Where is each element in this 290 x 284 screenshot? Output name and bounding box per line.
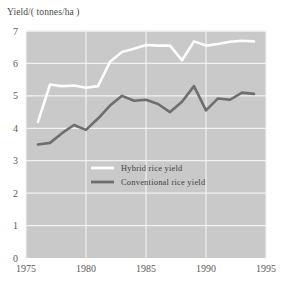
y-tick-label: 1	[13, 220, 18, 231]
y-tick-label: 5	[13, 90, 18, 101]
y-tick-label: 2	[13, 188, 18, 199]
y-tick-label: 3	[13, 155, 18, 166]
plot-canvas: 01234567 19751980198519901995 Hybrid ric…	[0, 0, 290, 284]
y-axis-tick-labels: 01234567	[13, 26, 18, 264]
x-tick-label: 1995	[256, 263, 276, 274]
x-axis-tick-labels: 19751980198519901995	[16, 263, 276, 274]
yield-line-chart: Yield/( tonnes/ha ) 01234567 19751980198…	[0, 0, 290, 284]
x-tick-label: 1980	[76, 263, 96, 274]
x-tick-label: 1990	[196, 263, 216, 274]
y-tick-label: 7	[13, 26, 18, 37]
x-tick-label: 1985	[136, 263, 156, 274]
legend-label: Hybrid rice yield	[121, 164, 183, 173]
y-tick-label: 4	[13, 123, 18, 134]
y-tick-label: 0	[13, 253, 18, 264]
y-tick-label: 6	[13, 58, 18, 69]
x-tick-label: 1975	[16, 263, 36, 274]
legend-label: Conventional rice yield	[121, 178, 206, 187]
